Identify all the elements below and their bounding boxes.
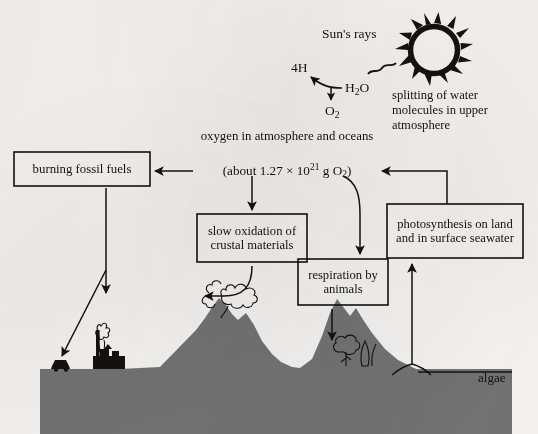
- box-photosynthesis[interactable]: photosynthesis on land and in surface se…: [387, 204, 523, 258]
- sun-icon: [395, 12, 473, 86]
- arrow-photosynthesis-to-reservoir: [382, 171, 447, 204]
- terrain-base: [40, 369, 512, 434]
- water-suffix: O: [360, 80, 370, 95]
- arrow-oxidation-to-crust: [205, 266, 252, 296]
- oxygen-cycle-diagram: Sun's rays 4H H2O O2 splitting of water …: [0, 0, 538, 434]
- algae-label: algae: [478, 371, 505, 386]
- photolysis-oxygen-label: O2: [325, 103, 340, 121]
- oxygen-prefix: O: [325, 103, 335, 118]
- box-burning-fossil-fuels[interactable]: burning fossil fuels: [14, 152, 150, 186]
- reservoir-label: oxygen in atmosphere and oceans: [196, 129, 378, 145]
- mass-prefix: (about 1.27 × 10: [223, 163, 310, 178]
- mass-suffix: ): [347, 163, 351, 178]
- sun-ray-squiggle: [368, 63, 396, 74]
- photolysis-hydrogen-label: 4H: [291, 60, 308, 75]
- photolysis-caption: splitting of water molecules in upper at…: [392, 88, 524, 133]
- mass-middle: g O: [319, 163, 342, 178]
- suns-rays-label: Sun's rays: [322, 26, 377, 41]
- reservoir-mass-label: (about 1.27 × 1021 g O2): [196, 162, 378, 180]
- arrow-reservoir-to-respiration: [343, 176, 360, 254]
- box-respiration[interactable]: respiration by animals: [298, 259, 388, 305]
- arrow-h2o-to-4h: [311, 77, 342, 88]
- box-slow-oxidation[interactable]: slow oxidation of crustal materials: [197, 214, 307, 262]
- water-prefix: H: [345, 80, 355, 95]
- oxygen-subscript: 2: [335, 109, 340, 120]
- photolysis-water-label: H2O: [345, 80, 369, 98]
